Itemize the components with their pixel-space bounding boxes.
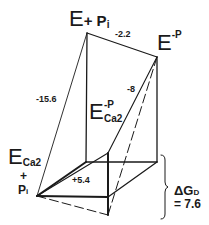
- state-label-e-minus-p: E-P: [157, 32, 182, 54]
- value-top-edge: -2.2: [115, 30, 131, 39]
- edge-front-floor: [37, 196, 108, 197]
- state-ep-sup: -P: [172, 29, 182, 40]
- delta-g-value: = 7.6: [174, 198, 201, 210]
- value-base-face: +5.4: [72, 176, 90, 185]
- delta-g-bracket: [161, 155, 168, 219]
- state-eca-main: E: [89, 99, 104, 124]
- state-e-suffix: + P: [84, 12, 107, 29]
- state-label-eca2-plus-pi: ECa2: [8, 146, 41, 168]
- state-label-eca2-minus-p: E: [89, 101, 104, 123]
- state-e-main: E: [69, 6, 84, 31]
- state-label-e-plus-pi: E+ Pi: [69, 8, 109, 30]
- edge-back-left-vertical: [86, 33, 87, 162]
- state-eca-sub: Ca2: [104, 114, 122, 124]
- edge-dashed-bottom: [37, 196, 108, 215]
- delta-g-label: ΔGD: [174, 182, 199, 198]
- value-right-diagonal: -8: [127, 85, 135, 94]
- state-ecapi-pi-main: P: [18, 183, 26, 197]
- state-ecapi-sub: Ca2: [23, 157, 41, 168]
- delta-g-sub: D: [193, 188, 199, 197]
- edge-left-diagonal: [37, 33, 87, 196]
- edge-right-diagonal: [108, 57, 157, 153]
- state-eca-sup: -P: [104, 100, 114, 110]
- state-ecapi-pi: Pi: [18, 181, 28, 197]
- state-e-suffix-sub: i: [107, 19, 110, 30]
- state-ecapi-main: E: [8, 144, 23, 169]
- value-left-diagonal: -15.6: [36, 95, 57, 104]
- delta-g-main: ΔG: [174, 183, 193, 198]
- state-ecapi-pi-sub: i: [26, 187, 28, 196]
- edge-right-floor: [108, 162, 157, 197]
- state-ep-main: E: [157, 30, 172, 55]
